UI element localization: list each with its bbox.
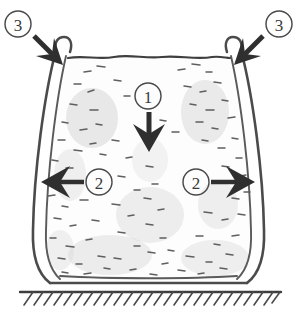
callout-2-left-label: 2 [95,174,104,193]
callout-2-right-label: 2 [192,174,201,193]
callout-3-left-label: 3 [14,16,23,35]
callout-3-right-group: 3 [234,11,292,65]
fill-top-surface [68,56,230,58]
ground-support [20,292,281,305]
ground-hatching [24,292,280,305]
callout-3-left-group: 3 [5,11,63,65]
vessel-force-diagram: Hand-drawn cross-section of a flexible-w… [0,0,297,323]
callout-1-label: 1 [144,88,153,107]
callout-3-right-label: 3 [275,16,284,35]
